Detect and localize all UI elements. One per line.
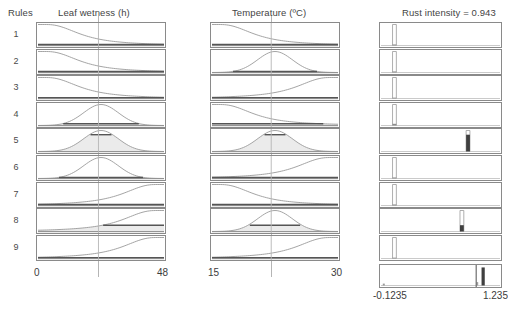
rule-8-input2-plot[interactable]: [210, 208, 340, 234]
rule-1-input1-plot[interactable]: [36, 22, 166, 48]
rule-1-output-plot[interactable]: [379, 22, 502, 48]
rule-1-input2-plot[interactable]: [210, 22, 340, 48]
rule-number-1: 1: [8, 29, 24, 39]
rule-2-input2-plot[interactable]: [210, 49, 340, 75]
rule-3-input1-plot[interactable]: [36, 75, 166, 101]
rule-2-output-plot[interactable]: [379, 49, 502, 75]
rule-9-input1-plot[interactable]: [36, 235, 166, 261]
output-title-rust-intensity: Rust intensity = 0.943: [402, 7, 496, 18]
rule-9-input2-plot[interactable]: [210, 235, 340, 261]
column-header-rules: Rules: [8, 7, 33, 18]
rule-8-input1-plot[interactable]: [36, 208, 166, 234]
rule-6-output-plot[interactable]: [379, 155, 502, 181]
rule-9-output-plot[interactable]: [379, 235, 502, 261]
input1-axis-min-label: 0: [34, 267, 40, 278]
rule-number-8: 8: [8, 215, 24, 225]
rule-3-input2-plot[interactable]: [210, 75, 340, 101]
rule-7-input1-plot[interactable]: [36, 182, 166, 208]
rule-3-output-plot[interactable]: [379, 75, 502, 101]
rule-2-input1-plot[interactable]: [36, 49, 166, 75]
column-header-leaf-wetness: Leaf wetness (h): [58, 7, 130, 18]
rule-number-9: 9: [8, 242, 24, 252]
rule-number-5: 5: [8, 135, 24, 145]
input1-axis-max-label: 48: [157, 267, 168, 278]
rule-4-input1-plot[interactable]: [36, 102, 166, 128]
rule-number-3: 3: [8, 82, 24, 92]
rule-5-output-plot[interactable]: [379, 128, 502, 154]
rule-number-4: 4: [8, 109, 24, 119]
rule-4-input2-plot[interactable]: [210, 102, 340, 128]
rule-number-2: 2: [8, 56, 24, 66]
rule-number-7: 7: [8, 189, 24, 199]
rule-7-input2-plot[interactable]: [210, 182, 340, 208]
rule-8-output-plot[interactable]: [379, 208, 502, 234]
column-header-temperature: Temperature (ºC): [232, 7, 306, 18]
rule-4-output-plot[interactable]: [379, 102, 502, 128]
rule-6-input2-plot[interactable]: [210, 155, 340, 181]
rule-5-input1-plot[interactable]: [36, 128, 166, 154]
output-axis-min-label: -0.1235: [373, 290, 407, 301]
input2-axis-min-label: 15: [208, 267, 219, 278]
rule-5-input2-plot[interactable]: [210, 128, 340, 154]
input2-axis-max-label: 30: [331, 267, 342, 278]
rule-number-6: 6: [8, 162, 24, 172]
output-axis-max-label: 1.235: [483, 290, 508, 301]
rule-6-input1-plot[interactable]: [36, 155, 166, 181]
aggregate-output-plot[interactable]: [379, 264, 502, 288]
rule-7-output-plot[interactable]: [379, 182, 502, 208]
